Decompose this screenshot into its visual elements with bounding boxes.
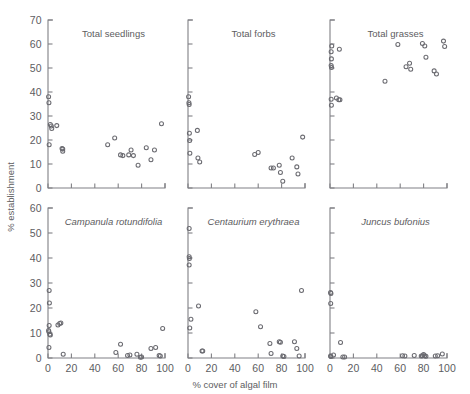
x-axis-title: % cover of algal film bbox=[192, 379, 277, 390]
data-point bbox=[47, 95, 51, 99]
data-point bbox=[113, 136, 117, 140]
data-point bbox=[295, 165, 299, 169]
data-point bbox=[149, 158, 153, 162]
data-point bbox=[135, 352, 139, 356]
data-point bbox=[440, 352, 444, 356]
data-point bbox=[129, 148, 133, 152]
panel-total-seedlings: 010203040506070Total seedlings bbox=[30, 14, 165, 194]
x-tick-label: 40 bbox=[89, 362, 101, 374]
data-point bbox=[404, 65, 408, 69]
data-point bbox=[159, 122, 163, 126]
data-point bbox=[254, 310, 258, 314]
data-point bbox=[197, 304, 201, 308]
panel-title: Total forbs bbox=[232, 28, 276, 39]
data-point bbox=[408, 61, 412, 65]
panel-centaurium-erythraea: 020406080100Centaurium erythraea bbox=[185, 208, 314, 374]
data-point bbox=[290, 156, 294, 160]
data-point bbox=[198, 160, 202, 164]
data-point bbox=[281, 179, 285, 183]
data-point bbox=[131, 154, 135, 158]
y-tick-label: 0 bbox=[36, 182, 42, 194]
data-point bbox=[161, 327, 165, 331]
figure-canvas: 010203040506070Total seedlingsTotal forb… bbox=[0, 0, 470, 394]
data-point bbox=[119, 342, 123, 346]
data-point bbox=[195, 128, 199, 132]
x-tick-label: 20 bbox=[66, 362, 78, 374]
y-tick-label: 30 bbox=[30, 110, 42, 122]
data-point bbox=[329, 302, 333, 306]
data-point bbox=[337, 47, 341, 51]
data-point bbox=[383, 79, 387, 83]
x-tick-label: 80 bbox=[276, 362, 288, 374]
x-tick-label: 60 bbox=[112, 362, 124, 374]
panel-title: Campanula rotundifolia bbox=[65, 216, 163, 227]
data-point bbox=[106, 143, 110, 147]
data-point bbox=[268, 342, 272, 346]
data-point bbox=[295, 347, 299, 351]
data-point bbox=[154, 346, 158, 350]
data-point bbox=[136, 163, 140, 167]
y-tick-label: 0 bbox=[36, 352, 42, 364]
panel-frame bbox=[330, 20, 447, 188]
y-tick-label: 20 bbox=[30, 134, 42, 146]
panel-total-forbs: Total forbs bbox=[187, 20, 305, 188]
data-point bbox=[434, 72, 438, 76]
y-tick-label: 10 bbox=[30, 327, 42, 339]
y-tick-label: 40 bbox=[30, 252, 42, 264]
y-tick-label: 50 bbox=[30, 62, 42, 74]
x-tick-label: 100 bbox=[438, 362, 456, 374]
data-point bbox=[420, 42, 424, 46]
y-tick-label: 60 bbox=[30, 38, 42, 50]
y-tick-label: 10 bbox=[30, 158, 42, 170]
x-tick-label: 100 bbox=[156, 362, 174, 374]
data-point bbox=[424, 55, 428, 59]
y-tick-label: 70 bbox=[30, 14, 42, 26]
data-point bbox=[423, 44, 427, 48]
panel-title: Total grasses bbox=[368, 28, 424, 39]
panel-juncus-bufonius: 020406080100Juncus bufonius bbox=[327, 208, 456, 374]
data-point bbox=[187, 95, 191, 99]
x-tick-label: 20 bbox=[348, 362, 360, 374]
data-point bbox=[396, 42, 400, 46]
x-tick-label: 40 bbox=[229, 362, 241, 374]
data-point bbox=[296, 172, 300, 176]
x-tick-label: 80 bbox=[418, 362, 430, 374]
y-tick-label: 50 bbox=[30, 227, 42, 239]
panel-total-grasses: Total grasses bbox=[329, 20, 447, 188]
y-axis-title: % establishment bbox=[5, 162, 16, 232]
panel-frame bbox=[48, 20, 165, 188]
data-point bbox=[189, 317, 193, 321]
data-point bbox=[339, 341, 343, 345]
x-tick-label: 0 bbox=[45, 362, 51, 374]
data-point bbox=[256, 150, 260, 154]
y-tick-label: 20 bbox=[30, 302, 42, 314]
data-point bbox=[144, 146, 148, 150]
panel-frame bbox=[188, 208, 305, 358]
data-point bbox=[61, 352, 65, 356]
data-point bbox=[277, 163, 281, 167]
x-tick-label: 0 bbox=[327, 362, 333, 374]
panel-title: Total seedlings bbox=[82, 28, 145, 39]
panel-title: Centaurium erythraea bbox=[208, 216, 300, 227]
data-point bbox=[292, 340, 296, 344]
data-point bbox=[297, 354, 301, 358]
data-point bbox=[127, 153, 131, 157]
data-point bbox=[412, 354, 416, 358]
x-tick-label: 0 bbox=[185, 362, 191, 374]
x-tick-label: 60 bbox=[394, 362, 406, 374]
y-tick-label: 30 bbox=[30, 277, 42, 289]
data-point bbox=[152, 148, 156, 152]
panel-frame bbox=[188, 20, 305, 188]
data-point bbox=[269, 352, 273, 356]
data-point bbox=[196, 156, 200, 160]
data-point bbox=[443, 44, 447, 48]
data-point bbox=[55, 124, 59, 128]
data-point bbox=[114, 351, 118, 355]
data-point bbox=[441, 39, 445, 43]
scatter-matrix-figure: 010203040506070Total seedlingsTotal forb… bbox=[0, 0, 470, 394]
data-point bbox=[259, 325, 263, 329]
data-point bbox=[301, 135, 305, 139]
panel-frame bbox=[48, 208, 165, 358]
panel-title: Juncus bufonius bbox=[360, 216, 430, 227]
data-point bbox=[149, 347, 153, 351]
